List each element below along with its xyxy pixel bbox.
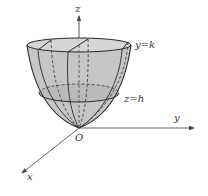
diagram-graphic bbox=[0, 0, 208, 196]
z-axis-label: z bbox=[75, 4, 80, 14]
top-plane-label: y=k bbox=[135, 40, 155, 50]
x-axis-label: x bbox=[27, 172, 33, 182]
origin-label: O bbox=[75, 133, 83, 143]
x-axis bbox=[22, 128, 79, 173]
section-plane-label: z=h bbox=[124, 94, 144, 104]
paraboloid-diagram: z y x O y=k z=h bbox=[0, 0, 208, 196]
y-axis-label: y bbox=[174, 113, 180, 123]
